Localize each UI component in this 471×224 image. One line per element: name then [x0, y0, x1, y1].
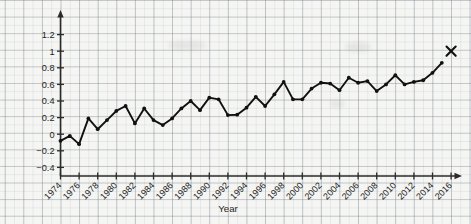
x-tick-label: 2016	[433, 180, 454, 201]
temperature-line	[61, 63, 442, 144]
x-axis-title: Year	[218, 203, 238, 214]
data-point	[273, 92, 277, 96]
data-point	[87, 117, 91, 121]
data-point	[347, 76, 351, 80]
data-point	[291, 97, 295, 101]
data-point	[161, 123, 165, 127]
y-axis-tick-labels: −0.4−0.200.20.40.60.811.2	[36, 30, 54, 173]
temperature-anomaly-chart: −0.4−0.200.20.40.60.811.2 19741976197819…	[0, 0, 471, 224]
data-point	[217, 97, 221, 101]
data-point	[403, 83, 407, 87]
y-tick-label: −0.4	[36, 163, 54, 173]
y-tick-label: 1.2	[42, 30, 55, 40]
data-point	[431, 71, 435, 75]
data-point	[319, 81, 323, 85]
x-axis-tick-labels: 1974197619781980198219841986198819901992…	[42, 180, 454, 201]
x-tick-label: 1974	[42, 180, 63, 201]
x-tick-label: 1986	[154, 180, 175, 201]
data-point	[170, 117, 174, 121]
data-point	[133, 122, 137, 126]
x-tick-label: 1990	[191, 180, 212, 201]
x-tick-label: 1984	[135, 180, 156, 201]
data-point	[226, 113, 230, 117]
x-tick-label: 2012	[396, 180, 417, 201]
data-point	[393, 73, 397, 77]
data-point	[245, 106, 249, 110]
x-tick-label: 1988	[172, 180, 193, 201]
x-tick-label: 2000	[284, 180, 305, 201]
x-axis-arrow	[455, 173, 463, 179]
data-point	[263, 104, 267, 108]
data-point	[338, 88, 342, 92]
x-tick-label: 2004	[321, 180, 342, 201]
data-point	[96, 127, 100, 131]
data-point	[59, 139, 63, 143]
data-point	[152, 118, 156, 122]
data-point	[254, 95, 258, 99]
data-point	[207, 96, 211, 100]
x-tick-label: 2010	[377, 180, 398, 201]
y-tick-label: 0.8	[42, 63, 55, 73]
data-point	[375, 89, 379, 93]
x-tick-label: 2014	[414, 180, 435, 201]
x-tick-label: 1982	[117, 180, 138, 201]
data-point	[77, 142, 81, 146]
data-point	[282, 80, 286, 84]
x-tick-label: 1996	[247, 180, 268, 201]
x-tick-label: 1976	[61, 180, 82, 201]
x-tick-label: 1998	[265, 180, 286, 201]
x-tick-label: 1980	[98, 180, 119, 201]
y-tick-label: 0.6	[42, 80, 55, 90]
y-tick-label: 0	[49, 130, 54, 140]
data-point	[235, 113, 239, 117]
data-point	[440, 61, 444, 65]
data-point	[189, 99, 193, 103]
y-axis-arrow	[57, 10, 63, 18]
y-tick-label: −0.2	[36, 146, 54, 156]
data-point	[180, 107, 184, 111]
data-point	[198, 108, 202, 112]
x-tick-label: 1978	[79, 180, 100, 201]
data-point	[412, 80, 416, 84]
x-tick-label: 1992	[210, 180, 231, 201]
chart-plot-area: −0.4−0.200.20.40.60.811.2 19741976197819…	[0, 0, 471, 224]
data-point	[328, 82, 332, 86]
x-tick-label: 2008	[358, 180, 379, 201]
data-point	[114, 109, 118, 113]
data-point	[310, 87, 314, 91]
data-point	[384, 83, 388, 87]
data-point	[421, 78, 425, 82]
data-point	[356, 81, 360, 85]
data-point	[124, 104, 128, 108]
data-point	[105, 118, 109, 122]
data-point	[300, 97, 304, 101]
projected-point-marker	[447, 47, 456, 56]
data-point	[142, 107, 146, 111]
x-tick-label: 2006	[340, 180, 361, 201]
x-tick-label: 2002	[303, 180, 324, 201]
data-point	[366, 79, 370, 83]
y-tick-label: 0.4	[42, 96, 55, 106]
data-point	[68, 134, 72, 138]
x-tick-label: 1994	[228, 180, 249, 201]
y-tick-label: 0.2	[42, 113, 55, 123]
y-tick-label: 1	[49, 47, 54, 57]
